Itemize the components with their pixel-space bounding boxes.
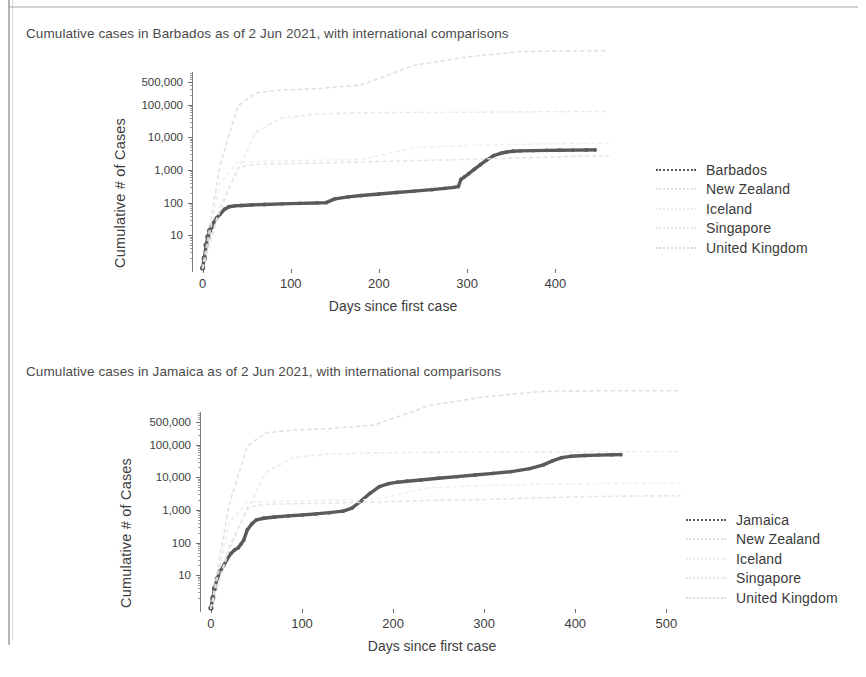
series-canvas [0,72,610,274]
legend-line-swatch-icon [686,538,726,540]
series-line-new-zealand [203,156,609,268]
series-point [437,476,441,480]
series-point [596,453,600,457]
series-line-united-kingdom [203,51,609,268]
series-point [280,202,284,206]
legend-item-label: United Kingdom [706,240,808,256]
series-point [582,454,586,458]
legend-item[interactable]: Singapore [656,219,808,239]
series-point [315,201,319,205]
x-axis-tick-label: 400 [564,616,586,631]
series-point [314,512,318,516]
legend-item-label: New Zealand [706,181,790,197]
series-point [584,148,588,152]
series-point [378,485,382,489]
series-point [478,163,482,167]
series-point [505,150,509,154]
x-axis-tick-label: 500 [655,616,677,631]
series-point [545,149,549,153]
legend-item[interactable]: Singapore [686,569,838,589]
series-point [569,454,573,458]
series-point [286,514,290,518]
legend-item[interactable]: United Kingdom [686,588,838,608]
series-point [346,195,350,199]
x-axis-title: Days since first case [368,638,496,654]
series-point [531,149,535,153]
series-point [528,467,532,471]
series-point [387,482,391,486]
series-point [396,480,400,484]
series-line-singapore [203,111,609,268]
figure-title-barbados: Cumulative cases in Barbados as of 2 Jun… [26,26,509,41]
x-axis-tick-label: 400 [544,276,566,291]
legend-item[interactable]: New Zealand [656,180,808,200]
series-line-barbados [203,150,595,268]
series-point [571,148,575,152]
legend-line-swatch-icon [686,519,726,521]
legend-item[interactable]: Jamaica [686,510,838,530]
series-point [341,509,345,513]
legend-item-label: Singapore [706,220,771,236]
series-point [610,453,614,457]
figure-title-jamaica: Cumulative cases in Jamaica as of 2 Jun … [26,364,501,379]
series-point [255,518,259,522]
series-point [412,189,416,193]
legend-barbados: BarbadosNew ZealandIcelandSingaporeUnite… [656,160,808,258]
legend-item[interactable]: New Zealand [686,530,838,550]
series-line-united-kingdom [211,391,680,608]
series-point [249,203,253,207]
series-point [405,479,409,483]
series-point [245,528,249,532]
x-axis-tick-label: 0 [199,276,206,291]
series-line-singapore [211,451,680,608]
series-point [242,538,246,542]
series-point [333,197,337,201]
legend-line-swatch-icon [656,188,696,190]
series-point [467,172,471,176]
legend-line-swatch-icon [686,558,726,560]
series-point [368,491,372,495]
plot-area-jamaica: Cumulative # of Cases101001,00010,000100… [0,412,680,608]
legend-line-swatch-icon [686,577,726,579]
legend-line-swatch-icon [656,227,696,229]
series-point [359,194,363,198]
series-point [430,188,434,192]
legend-item-label: Iceland [736,551,782,567]
legend-item[interactable]: Barbados [656,160,808,180]
legend-jamaica: JamaicaNew ZealandIcelandSingaporeUnited… [686,510,838,608]
series-point [236,546,240,550]
legend-item[interactable]: Iceland [656,199,808,219]
series-point [492,154,496,158]
series-point [239,204,243,208]
legend-line-swatch-icon [686,597,726,599]
legend-item-label: United Kingdom [736,590,838,606]
legend-item[interactable]: Iceland [686,549,838,569]
series-point [452,185,456,189]
series-point [298,201,302,205]
series-point [273,515,277,519]
series-point [459,177,463,181]
series-point [456,185,460,189]
series-line-jamaica [211,455,621,608]
series-point [511,149,515,153]
series-point [560,456,564,460]
x-axis-tick-label: 200 [368,276,390,291]
legend-item-label: Jamaica [736,512,789,528]
legend-item-label: Iceland [706,201,752,217]
legend-item[interactable]: United Kingdom [656,238,808,258]
series-point [551,459,555,463]
series-point [377,192,381,196]
legend-item-label: Singapore [736,570,801,586]
series-point [443,186,447,190]
series-line-new-zealand [211,496,680,608]
series-point [223,207,227,211]
series-point [324,201,328,205]
series-point [510,470,514,474]
series-point [300,513,304,517]
legend-line-swatch-icon [656,169,696,171]
figure-jamaica: Cumulative cases in Jamaica as of 2 Jun … [0,338,866,677]
legend-item-label: Barbados [706,162,767,178]
series-point [499,151,503,155]
series-point [327,511,331,515]
series-point [558,148,562,152]
